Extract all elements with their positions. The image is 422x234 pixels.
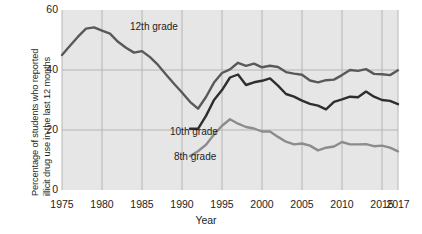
series-label-8th-grade: 8th grade (174, 151, 216, 162)
x-tick-label: 1980 (90, 198, 113, 210)
x-tick-label: 1975 (50, 198, 73, 210)
x-tick-label: 2010 (330, 198, 353, 210)
series-label-12th-grade: 12th grade (130, 21, 178, 32)
x-tick-label: 1995 (210, 198, 233, 210)
x-tick-label: 1985 (130, 198, 153, 210)
x-tick-label: 2005 (290, 198, 313, 210)
x-tick-label: 2000 (250, 198, 273, 210)
x-tick-label: 1990 (170, 198, 193, 210)
x-axis-title-wrap: Year (0, 214, 422, 226)
chart-figure: Percentage of students who reported illi… (0, 0, 422, 234)
x-axis-tick-labels: 1975198019851990199520002005201020152017 (0, 0, 422, 234)
series-label-10th-grade: 10th grade (170, 126, 218, 137)
x-axis-title: Year (195, 214, 216, 226)
x-tick-label: 2017 (386, 198, 409, 210)
